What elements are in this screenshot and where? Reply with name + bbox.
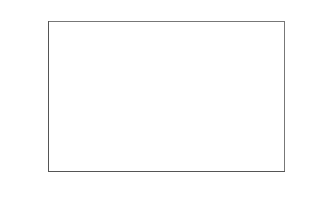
y-axis — [48, 21, 49, 172]
x-axis — [48, 171, 285, 172]
plot-area — [48, 21, 285, 172]
